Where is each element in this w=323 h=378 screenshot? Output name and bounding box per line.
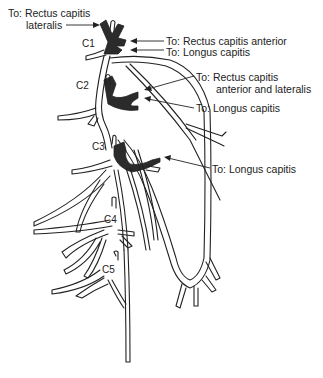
c4-sensory-twig [112, 197, 116, 208]
segment-label-c3: C3 [92, 141, 105, 152]
segment-label-c5: C5 [102, 264, 115, 275]
c5-sensory-twig [114, 251, 118, 260]
label-c2-rectus-line2: anterior and lateralis [216, 83, 311, 95]
c3-sensory-twig [112, 135, 116, 146]
label-c2-rectus-line1: To: Rectus capitis [196, 71, 278, 83]
vertical-nerve-1 [114, 170, 128, 250]
nerve-plexus-drawing [0, 0, 323, 378]
label-c1-rectus-lateralis-line1: To: Rectus capitis [8, 7, 90, 19]
label-c1-rectus-lateralis-line2: lateralis [26, 19, 62, 31]
label-c3-longus-capitis: To: Longus capitis [212, 163, 296, 175]
c1-muscle-branch [100, 20, 126, 54]
c2-left-branch [58, 108, 98, 126]
segment-label-c1: C1 [82, 38, 95, 49]
label-c1-longus-capitis: To: Longus capitis [166, 46, 250, 58]
descending-trunk [124, 250, 130, 362]
c4-right-twigs [118, 230, 134, 248]
c3-left-branch-3 [76, 180, 104, 232]
c3-left-branch-1 [72, 160, 112, 174]
label-c2-longus-capitis: To: Longus capitis [196, 102, 280, 114]
c2-muscle-branch [104, 76, 138, 110]
c5-join-branch [108, 280, 126, 308]
segment-label-c4: C4 [104, 214, 117, 225]
segment-label-c2: C2 [76, 80, 89, 91]
trunk-c1-c3-left [96, 56, 107, 150]
c3-left-branch-2 [34, 170, 110, 226]
descending-branch [126, 64, 220, 200]
